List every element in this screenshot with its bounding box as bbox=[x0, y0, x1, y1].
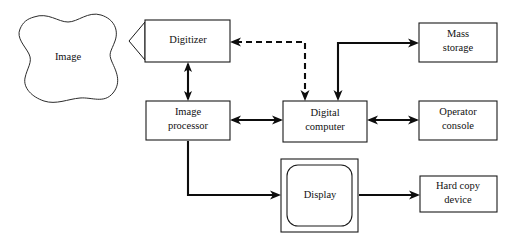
hard-copy-device-label-line1: Hard copy bbox=[436, 180, 481, 191]
node-image-processor: Image processor bbox=[146, 101, 230, 140]
digital-computer-label-line1: Digital bbox=[310, 107, 339, 118]
display-label: Display bbox=[304, 189, 337, 200]
operator-console-label-line1: Operator bbox=[439, 106, 477, 117]
node-operator-console: Operator console bbox=[419, 101, 497, 140]
node-digitizer: Digitizer bbox=[145, 20, 230, 62]
connector-line bbox=[188, 141, 275, 195]
mass-storage-label-line1: Mass bbox=[447, 28, 469, 39]
image-processor-label-line1: Image bbox=[175, 106, 202, 117]
connector-digital-computer-operator-console bbox=[367, 116, 419, 125]
operator-console-label-line2: console bbox=[442, 120, 474, 131]
hard-copy-device-label-line2: device bbox=[444, 194, 472, 205]
lens-icon bbox=[129, 22, 145, 60]
node-image: Image bbox=[19, 14, 118, 102]
image-processor-label-line2: processor bbox=[168, 120, 209, 131]
block-diagram: Image Digitizer Image processor Digital … bbox=[0, 0, 517, 242]
arrow-head-down bbox=[301, 90, 310, 101]
mass-storage-label-line2: storage bbox=[443, 42, 474, 53]
connector-image-processor-display bbox=[188, 141, 281, 200]
connector-digitizer-image-processor bbox=[184, 62, 192, 101]
connector-display-hard-copy-device bbox=[359, 191, 420, 200]
connector-line bbox=[338, 43, 413, 95]
node-display: Display bbox=[281, 159, 358, 232]
digitizer-label: Digitizer bbox=[169, 34, 207, 45]
connector-digital-computer-mass-storage bbox=[334, 39, 420, 102]
node-digital-computer: Digital computer bbox=[283, 101, 367, 142]
diagram-canvas: Image Digitizer Image processor Digital … bbox=[0, 0, 517, 242]
lens-triangle-shape bbox=[129, 22, 145, 60]
digital-computer-label-line2: computer bbox=[305, 121, 345, 132]
connector-line-dashed bbox=[236, 42, 305, 95]
image-label: Image bbox=[55, 51, 82, 62]
connector-image-processor-digital-computer bbox=[230, 116, 283, 125]
node-hard-copy-device: Hard copy device bbox=[420, 176, 497, 212]
connector-digital-computer-digitizer bbox=[230, 38, 310, 102]
node-mass-storage: Mass storage bbox=[419, 23, 497, 62]
